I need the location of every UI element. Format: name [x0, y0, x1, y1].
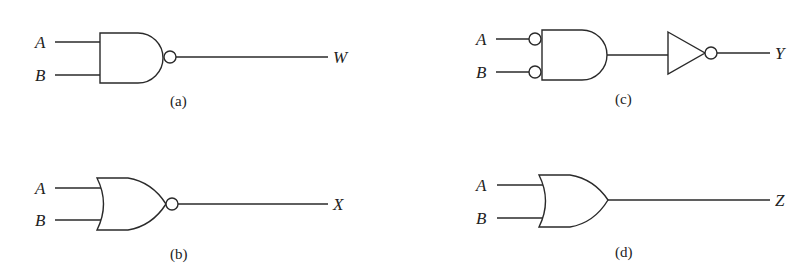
input-b-label: B: [476, 209, 487, 228]
nand-gate-body: [100, 33, 163, 83]
caption-d: (d): [615, 244, 633, 261]
nor-gate-body: [97, 178, 166, 230]
caption-b: (b): [170, 246, 188, 263]
or-gate-body: [539, 175, 608, 227]
input-a-label: A: [475, 176, 487, 195]
input-b-inversion-bubble: [529, 66, 541, 78]
input-a-label: A: [475, 30, 487, 49]
output-w-label: W: [333, 48, 349, 67]
diagram-a: A B W (a): [34, 33, 349, 110]
and-gate-body: [542, 30, 607, 80]
input-b-label: B: [476, 63, 487, 82]
input-a-label: A: [34, 33, 46, 52]
logic-gates-figure: A B W (a) A B X (b) A B Y (c): [0, 0, 812, 276]
output-x-label: X: [332, 195, 344, 214]
inversion-bubble: [164, 51, 176, 63]
diagram-c: A B Y (c): [475, 30, 786, 108]
output-y-label: Y: [775, 44, 786, 63]
inversion-bubble: [705, 47, 717, 59]
inversion-bubble: [166, 198, 178, 210]
caption-a: (a): [170, 93, 187, 110]
input-a-label: A: [34, 179, 46, 198]
diagram-b: A B X (b): [34, 178, 344, 263]
input-b-label: B: [35, 211, 46, 230]
not-gate-body: [668, 32, 705, 74]
diagram-d: A B Z (d): [475, 175, 785, 261]
output-z-label: Z: [775, 191, 785, 210]
input-a-inversion-bubble: [529, 33, 541, 45]
input-b-label: B: [35, 66, 46, 85]
caption-c: (c): [615, 91, 632, 108]
